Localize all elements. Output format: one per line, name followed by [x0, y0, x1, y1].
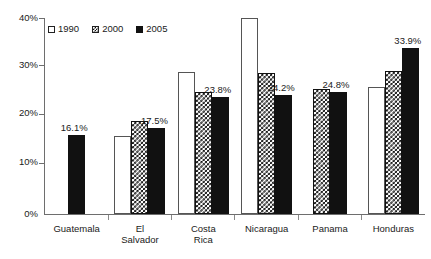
- category-separator: [298, 215, 299, 220]
- bar-group: 24.8%: [298, 18, 361, 214]
- y-axis-tick-label: 30%: [4, 60, 38, 70]
- y-axis-tick-label: 40%: [4, 13, 38, 23]
- bar-chart: 40% 30% 20% 10% 0% 1990 2000 2005: [0, 0, 431, 259]
- y-axis-tick-10: 10%: [0, 157, 38, 167]
- y-axis-tick-30: 30%: [0, 60, 38, 70]
- x-axis-label-panama: Panama: [298, 223, 361, 234]
- bar-costa-rica-2005: [212, 97, 229, 214]
- bar-el-salvador-2005: [148, 128, 165, 214]
- bar-honduras-2005: [402, 48, 419, 214]
- category-separator: [171, 215, 172, 220]
- bar-el-salvador-2000: [131, 121, 148, 214]
- bar-nicaragua-2000: [258, 73, 275, 214]
- bar-costa-rica-2000: [195, 92, 212, 215]
- bar-value-label: 33.9%: [386, 36, 430, 46]
- y-axis-tick-20: 20%: [0, 108, 38, 118]
- category-separator: [361, 215, 362, 220]
- bar-value-label: 16.1%: [52, 123, 96, 133]
- plot-area: 16.1%17.5%23.8%24.2%24.8%33.9%: [45, 18, 425, 214]
- bar-guatemala-2005: [68, 135, 85, 214]
- bar-group: 33.9%: [362, 18, 425, 214]
- y-axis-tick-label: 10%: [4, 157, 38, 167]
- bar-group: 23.8%: [172, 18, 235, 214]
- bar-panama-2005: [330, 92, 347, 214]
- bar-honduras-1990: [368, 87, 385, 214]
- bar-value-label: 23.8%: [196, 85, 240, 95]
- bar-value-label: 17.5%: [132, 116, 176, 126]
- category-separator: [234, 215, 235, 220]
- x-axis-label-honduras: Honduras: [362, 223, 425, 234]
- y-axis-tick-label: 0%: [4, 209, 38, 219]
- bar-group: 16.1%: [45, 18, 108, 214]
- bar-panama-2000: [313, 89, 330, 214]
- bar-honduras-2000: [385, 71, 402, 214]
- bar-group: 17.5%: [108, 18, 171, 214]
- x-axis-label-costa-rica: CostaRica: [172, 223, 235, 245]
- bar-group: 24.2%: [235, 18, 298, 214]
- bar-nicaragua-1990: [241, 18, 258, 214]
- bar-nicaragua-2005: [275, 95, 292, 214]
- bar-costa-rica-1990: [178, 72, 195, 214]
- bar-el-salvador-1990: [114, 136, 131, 214]
- y-axis-tick-0: 0%: [0, 209, 38, 219]
- y-axis-tick-label: 20%: [4, 108, 38, 118]
- x-axis-label-guatemala: Guatemala: [45, 223, 108, 234]
- bar-value-label: 24.8%: [314, 80, 358, 90]
- bar-value-label: 24.2%: [259, 83, 303, 93]
- x-axis-label-el-salvador: ElSalvador: [108, 223, 171, 245]
- category-separator: [108, 215, 109, 220]
- x-axis-label-nicaragua: Nicaragua: [235, 223, 298, 234]
- y-axis-tick-40: 40%: [0, 13, 38, 23]
